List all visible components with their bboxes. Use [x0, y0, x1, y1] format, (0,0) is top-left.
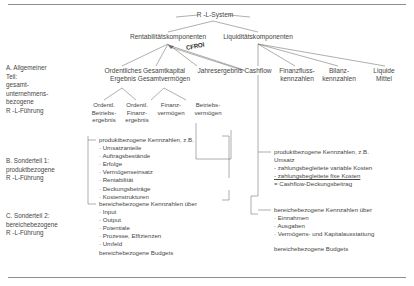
node-line-2: Betriebs- [92, 109, 116, 116]
node-liquiditaetskomponenten: Liquiditätskomponenten [211, 33, 305, 41]
node-finanzvermoegen: Finanz- vermögen [152, 101, 190, 116]
node-jahresergebnis: Jahresergebnis [194, 67, 246, 75]
list-item: · Umsatzanteile [99, 144, 194, 152]
node-line-2: kennzahlen [322, 75, 356, 82]
node-line-2: Mittel [376, 75, 392, 82]
node-line-2: Finanz- [127, 109, 147, 116]
node-betriebsvermoegen: Betriebs- vermögen [188, 101, 228, 116]
node-ordentl-betriebsergebnis: Ordentl. Betriebs- ergebnis [86, 101, 122, 124]
node-line-1: Finanzfluss- [279, 67, 315, 74]
list-item: · Deckungsbeträge [99, 185, 194, 193]
list-footer: bereichebezogene Budgets [274, 245, 374, 253]
node-line-2: Gesamtvermögen [138, 75, 190, 82]
list-item: · Input [99, 208, 197, 216]
node-root: R -L-System [193, 11, 237, 19]
node-bilanz-kennzahlen: Bilanz- kennzahlen [319, 67, 359, 83]
section-label-b: B. Sonderteil 1: produktbezogene R -L-Fü… [6, 157, 55, 183]
list-item: · Rentabilität [99, 176, 194, 184]
list-item: - zahlungsbegleitete fixe Kosten [274, 172, 372, 180]
list-item: · Vermögenseinsatz [99, 168, 194, 176]
node-line-2: kennzahlen [280, 75, 314, 82]
node-line-1: Betriebs- [196, 101, 220, 108]
node-cashflow: Cashflow [240, 67, 276, 75]
list-item: · Einnahmen [274, 214, 374, 222]
node-line-3: ergebnis [125, 116, 148, 123]
list-heading: bereichebezogene Kennzahlen über [99, 200, 197, 208]
node-liquide-mittel: Liquide Mittel [365, 67, 403, 83]
diagram-canvas: R -L-System Rentabilitätskomponenten Liq… [0, 0, 414, 286]
node-line-1: Ordentl. [93, 101, 115, 108]
list-left-product: produktbezogene Kennzahlen, z.B. · Umsat… [99, 136, 194, 201]
list-item: · Output [99, 216, 197, 224]
node-line-1: Bilanz- [329, 67, 349, 74]
node-line-1: Jahresergebnis [197, 67, 242, 74]
list-item: - zahlungsbegleitete variable Kosten [274, 164, 372, 172]
node-line-1: Finanz- [161, 101, 181, 108]
list-item: Umsatz [274, 156, 372, 164]
section-label-c: C. Sonderteil 2: bereichebezogene R -L-F… [6, 212, 58, 238]
list-footer: bereichebezogene Budgets [99, 249, 197, 257]
node-line-2: vermögen [157, 109, 184, 116]
node-ordentl-finanzergebnis: Ordentl. Finanz- ergebnis [120, 101, 154, 124]
node-gesamtkapital: Gesamtkapital Gesamtvermögen [133, 67, 195, 83]
node-line-2: vermögen [194, 109, 221, 116]
node-finanzfluss-kennzahlen: Finanzfluss- kennzahlen [276, 67, 318, 83]
list-item: · Ausgaben [274, 222, 374, 230]
list-item: · Prozesse, Effizienzen [99, 232, 197, 240]
node-line-1: Gesamtkapital [143, 67, 185, 74]
list-item: · Auftragsbestände [99, 152, 194, 160]
list-heading: bereichebezogene Kennzahlen über [274, 206, 374, 214]
list-heading: produktbezogene Kennzahlen, z.B. [274, 148, 372, 156]
list-item: · Erfolge [99, 160, 194, 168]
section-label-a: A. Allgemeiner Teil: gesamt- unternehmen… [6, 64, 48, 116]
node-line-1: Cashflow [244, 67, 271, 74]
list-right-area: bereichebezogene Kennzahlen über · Einna… [274, 206, 374, 253]
list-item: · Potentiale [99, 224, 197, 232]
list-right-product: produktbezogene Kennzahlen, z.B. Umsatz … [274, 148, 372, 188]
node-line-3: ergebnis [92, 116, 115, 123]
node-line-1: Ordentl. [126, 101, 148, 108]
list-item: = Cashflow-Deckungsbeitrag [274, 180, 372, 188]
list-heading: produktbezogene Kennzahlen, z.B. [99, 136, 194, 144]
node-line-1: Liquide [373, 67, 394, 74]
list-left-area: bereichebezogene Kennzahlen über · Input… [99, 200, 197, 257]
list-item: · Vermögens- und Kapitalausstattung [274, 230, 374, 238]
list-item: · Umfeld [99, 240, 197, 248]
